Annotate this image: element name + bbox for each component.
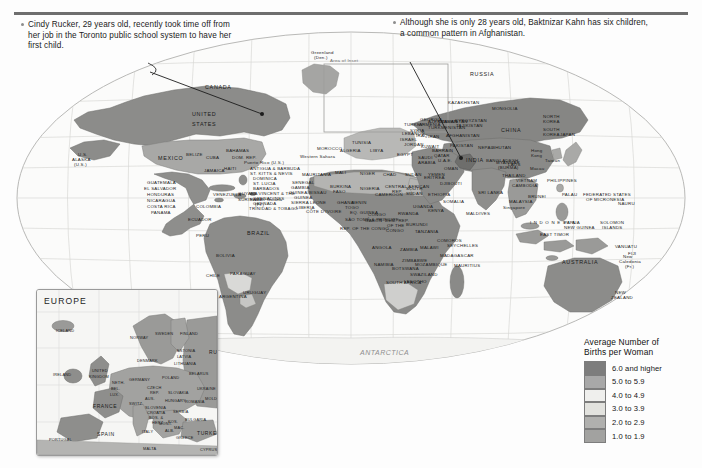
inset-label: DENMARK	[137, 358, 158, 363]
legend-row: 3.0 to 3.9	[584, 402, 696, 416]
legend-swatch	[584, 375, 606, 389]
annotation-right: Although she is only 28 years old, Baktn…	[400, 18, 650, 39]
inset-label: BELARUS	[189, 371, 209, 376]
inset-label: TURKEY	[197, 430, 218, 436]
inset-label: UKRAINE	[197, 386, 216, 391]
inset-label: LUX.	[110, 392, 119, 397]
inset-label: ROMANIA	[185, 399, 205, 404]
inset-label: NETH.	[112, 380, 125, 385]
inset-label: FINLAND	[180, 331, 198, 336]
inset-title: EUROPE	[44, 296, 87, 306]
annotation-left-text: Cindy Rucker, 29 years old, recently too…	[28, 20, 231, 50]
inset-label: MOLDOVA	[205, 396, 218, 401]
inset-label: REP.	[150, 390, 159, 395]
inset-label: NORWAY	[130, 335, 148, 340]
inset-label: ALB.	[165, 428, 174, 433]
inset-label: LATVIA	[177, 354, 191, 359]
annotation-right-text: Although she is only 28 years old, Baktn…	[400, 18, 648, 38]
legend-row: 1.0 to 1.9	[584, 429, 696, 443]
legend-title: Average Number of Births per Woman	[584, 337, 696, 357]
legend-swatch	[584, 361, 606, 375]
legend-row: 5.0 to 5.9	[584, 375, 696, 389]
legend-row: 6.0 and higher	[584, 361, 696, 375]
legend-swatch	[584, 429, 606, 443]
inset-label: SLOVAKIA	[168, 390, 189, 395]
legend-title-line2: Births per Woman	[584, 347, 696, 357]
annotation-bullet-icon	[393, 21, 396, 24]
inset-label: LITHUANIA	[174, 361, 196, 366]
legend-label: 5.0 to 5.9	[612, 377, 645, 386]
inset-label: HUNGARY	[165, 398, 186, 403]
inset-label: SPAIN	[97, 431, 115, 437]
annotation-bullet-icon	[21, 23, 24, 26]
inset-label: GERMANY	[129, 377, 150, 382]
inset-label: SWEDEN	[155, 331, 173, 336]
inset-label: POLAND	[162, 375, 179, 380]
annotation-left: Cindy Rucker, 29 years old, recently too…	[28, 20, 236, 52]
inset-label: BULGARIA	[185, 417, 206, 422]
inset-label: IRELAND	[53, 372, 71, 377]
inset-label: BEL.	[111, 386, 120, 391]
page-root: Greenland(Den.)Area of InsetU.S.ALASKA(U…	[0, 0, 702, 468]
inset-label: ITALY	[142, 429, 153, 434]
inset-label: CYPRUS	[200, 447, 217, 452]
inset-label: MAC.	[174, 425, 185, 430]
legend-label: 2.0 to 2.9	[612, 418, 645, 427]
europe-inset-map: EUROPE ICELANDNORWAYSWEDENFINLANDESTONIA…	[36, 289, 218, 456]
legend-label: 6.0 and higher	[612, 364, 662, 373]
inset-label: KOS.	[168, 419, 178, 424]
legend-swatch	[584, 389, 606, 403]
legend-row: 4.0 to 4.9	[584, 389, 696, 403]
top-divider-rule	[14, 12, 688, 15]
inset-label: SWITZ.	[129, 401, 143, 406]
legend-row: 2.0 to 2.9	[584, 416, 696, 430]
inset-label: SERBIA	[173, 409, 188, 414]
inset-label: ESTONIA	[177, 348, 195, 353]
inset-label: KINGDOM	[89, 374, 109, 379]
legend-swatch	[584, 402, 606, 416]
inset-label: FRANCE	[93, 403, 117, 409]
map-legend: Average Number of Births per Woman 6.0 a…	[584, 337, 696, 443]
legend-label: 1.0 to 1.9	[612, 432, 645, 441]
inset-label: UNITED	[92, 368, 108, 373]
inset-label: GREECE	[176, 435, 194, 440]
inset-label: ICELAND	[56, 328, 74, 333]
inset-label: AUS.	[145, 396, 155, 401]
legend-swatch	[584, 416, 606, 430]
legend-label: 3.0 to 3.9	[612, 404, 645, 413]
inset-label: PORTUGAL	[49, 437, 72, 442]
legend-title-line1: Average Number of	[584, 337, 696, 347]
inset-label: MALTA	[143, 446, 156, 451]
inset-label: RUSSIA	[209, 349, 218, 355]
legend-label: 4.0 to 4.9	[612, 391, 645, 400]
legend-items: 6.0 and higher5.0 to 5.94.0 to 4.93.0 to…	[584, 361, 696, 443]
